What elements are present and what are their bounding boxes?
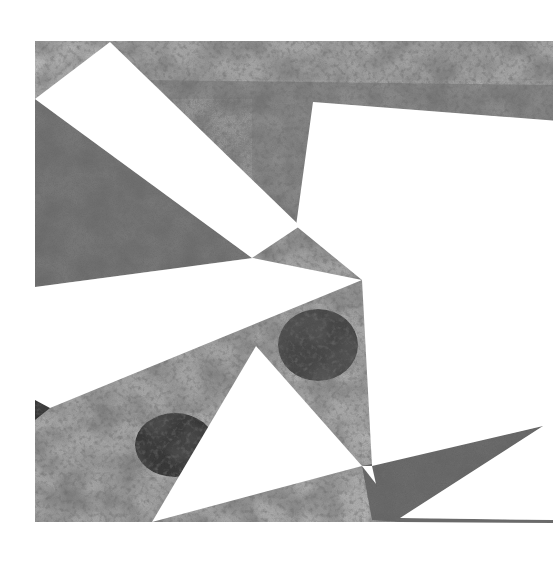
abstract-collage-artwork: [0, 0, 559, 568]
margin-top: [0, 0, 559, 41]
margin-left: [0, 0, 35, 568]
margin-right: [553, 0, 559, 121]
margin-bottom: [0, 523, 559, 568]
